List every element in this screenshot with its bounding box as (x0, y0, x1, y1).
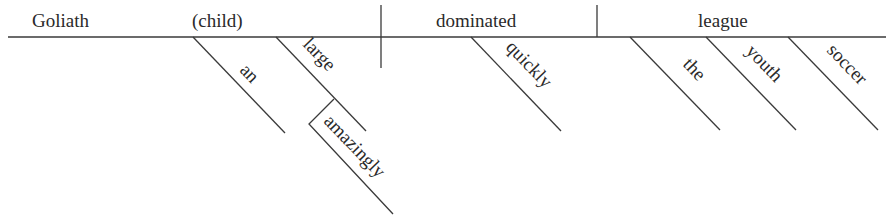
modifier-line-an (193, 37, 285, 133)
verb-word: dominated (436, 10, 517, 31)
modifier-amazingly: amazingly (320, 110, 390, 182)
object-word: league (698, 10, 748, 31)
appositive-word: (child) (192, 10, 243, 32)
subject-word: Goliath (32, 10, 89, 31)
modifier-youth: youth (742, 40, 788, 86)
modifier-quickly: quickly (502, 36, 557, 92)
sentence-diagram: Goliath (child) an large amazingly domin… (0, 0, 887, 220)
modifier-line-the (630, 37, 720, 130)
modifier-large: large (299, 33, 340, 75)
modifier-an: an (236, 59, 264, 87)
modifier-the: the (679, 53, 710, 84)
